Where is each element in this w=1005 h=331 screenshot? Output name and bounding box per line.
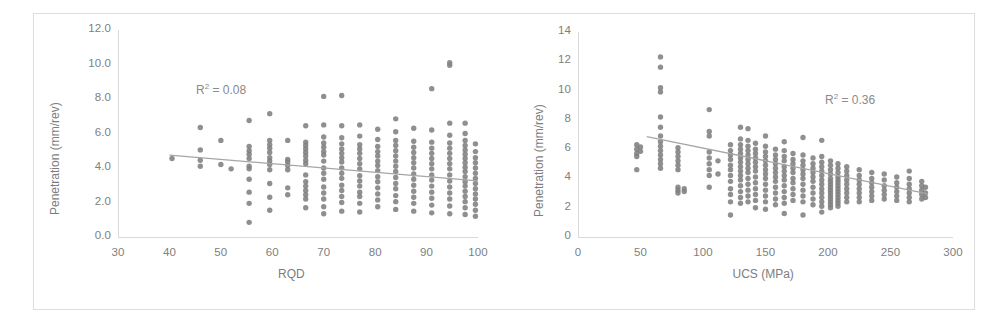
scatter-point <box>753 198 758 203</box>
scatter-point <box>634 167 639 172</box>
scatter-point <box>753 174 758 179</box>
scatter-point <box>728 199 733 204</box>
scatter-point <box>462 169 467 174</box>
scatter-point <box>728 186 733 191</box>
scatter-point <box>375 163 380 168</box>
r2-text-left: R2 = 0.08 <box>196 83 246 97</box>
scatter-point <box>429 127 434 132</box>
scatter-point <box>321 190 326 195</box>
scatter-point <box>715 171 720 176</box>
x-axis-line-left <box>118 237 478 238</box>
scatter-point <box>844 199 849 204</box>
scatter-point <box>763 199 768 204</box>
scatter-point <box>763 193 768 198</box>
scatter-point <box>658 54 663 59</box>
x-tick-label-left: 50 <box>196 246 246 258</box>
scatter-point <box>246 118 251 123</box>
scatter-point <box>828 205 833 210</box>
y-tick-label-right: 8 <box>565 112 572 124</box>
scatter-point <box>715 158 720 163</box>
scatter-point <box>246 166 251 171</box>
scatter-point <box>707 161 712 166</box>
scatter-point <box>763 182 768 187</box>
scatter-point <box>773 185 778 190</box>
scatter-point <box>393 181 398 186</box>
scatter-point <box>782 211 787 216</box>
scatter-point <box>429 161 434 166</box>
scatter-point <box>473 160 478 165</box>
scatter-point <box>473 155 478 160</box>
scatter-point <box>447 145 452 150</box>
scatter-point <box>658 89 663 94</box>
scatter-plot-rqd <box>0 0 500 331</box>
scatter-point <box>728 173 733 178</box>
scatter-point <box>728 157 733 162</box>
scatter-point <box>473 214 478 219</box>
scatter-point <box>375 204 380 209</box>
scatter-point <box>745 176 750 181</box>
scatter-point <box>429 210 434 215</box>
scatter-point <box>447 190 452 195</box>
scatter-point <box>753 192 758 197</box>
y-tick-label-right: 2 <box>565 200 572 212</box>
scatter-point <box>473 186 478 191</box>
scatter-point <box>782 189 787 194</box>
scatter-point <box>658 133 663 138</box>
scatter-point <box>339 159 344 164</box>
scatter-point <box>357 183 362 188</box>
scatter-point <box>321 204 326 209</box>
scatter-point <box>303 161 308 166</box>
x-axis-line-right <box>578 237 953 238</box>
scatter-point <box>411 145 416 150</box>
scatter-point <box>907 168 912 173</box>
scatter-point <box>393 153 398 158</box>
scatter-point <box>411 139 416 144</box>
scatter-point <box>429 139 434 144</box>
scatter-point <box>882 171 887 176</box>
figure-container: Penetration (mm/rev) RQD R2 = 0.08 0.02.… <box>0 0 1005 331</box>
scatter-point <box>763 144 768 149</box>
y-tick-label-left: 2.0 <box>95 195 111 207</box>
scatter-point <box>882 177 887 182</box>
scatter-point <box>357 151 362 156</box>
scatter-point <box>473 141 478 146</box>
scatter-point <box>745 138 750 143</box>
scatter-point <box>763 176 768 181</box>
scatter-point <box>429 189 434 194</box>
scatter-point <box>393 138 398 143</box>
scatter-point <box>800 193 805 198</box>
scatter-point <box>907 176 912 181</box>
scatter-point <box>800 135 805 140</box>
scatter-point <box>753 186 758 191</box>
scatter-point <box>267 195 272 200</box>
scatter-point <box>267 111 272 116</box>
x-tick-label-right: 200 <box>803 246 853 258</box>
x-tick-label-left: 90 <box>402 246 452 258</box>
scatter-point <box>339 188 344 193</box>
scatter-point <box>228 166 233 171</box>
scatter-point <box>682 189 687 194</box>
scatter-point <box>473 165 478 170</box>
scatter-point <box>800 182 805 187</box>
scatter-point <box>634 154 639 159</box>
y-tick-label-right: 12 <box>558 53 571 65</box>
x-tick-label-right: 0 <box>553 246 603 258</box>
scatter-point <box>411 177 416 182</box>
y-axis-line-right <box>578 32 579 238</box>
scatter-point <box>321 177 326 182</box>
scatter-point <box>285 192 290 197</box>
scatter-point <box>429 195 434 200</box>
scatter-point <box>462 189 467 194</box>
scatter-point <box>810 179 815 184</box>
y-tick-label-left: 6.0 <box>95 126 111 138</box>
scatter-point <box>429 177 434 182</box>
scatter-point <box>462 212 467 217</box>
scatter-point <box>447 140 452 145</box>
scatter-point <box>810 190 815 195</box>
scatter-point <box>447 172 452 177</box>
scatter-point <box>375 179 380 184</box>
y-tick-label-right: 0 <box>565 229 572 241</box>
scatter-point <box>357 122 362 127</box>
scatter-point <box>357 133 362 138</box>
x-tick-label-left: 40 <box>144 246 194 258</box>
